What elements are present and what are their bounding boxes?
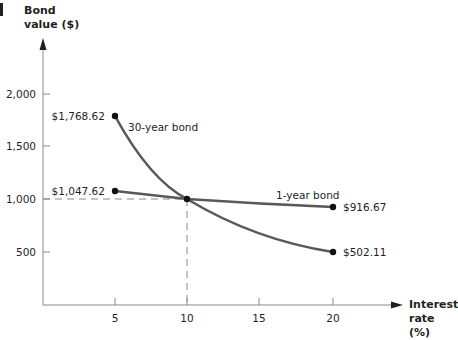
label-30yr-20: $502.11 (343, 246, 386, 258)
y-tick-1500: 1,500 (6, 140, 36, 152)
y-tick-1000: 1,000 (6, 193, 36, 205)
label-1yr-20: $916.67 (343, 201, 386, 213)
series-30-year-bond (115, 116, 333, 252)
x-tick-5: 5 (112, 312, 119, 324)
axes (43, 48, 392, 305)
point-intersection-10 (184, 196, 190, 202)
y-tick-500: 500 (16, 246, 36, 258)
label-1yr-5: $1,047.62 (52, 185, 105, 197)
x-tick-15: 15 (252, 312, 265, 324)
label-30yr-5: $1,768.62 (52, 110, 105, 122)
x-tick-20: 20 (326, 312, 339, 324)
x-axis-arrow-icon (391, 302, 403, 309)
y-axis-arrow-icon (40, 38, 47, 50)
point-1yr-5 (112, 188, 118, 194)
point-30yr-5 (112, 113, 118, 119)
point-1yr-20 (330, 204, 336, 210)
y-ticks (43, 94, 50, 252)
data-points (112, 113, 336, 255)
series-label-30yr: 30-year bond (128, 121, 198, 133)
reference-lines (43, 199, 187, 305)
point-30yr-20 (330, 249, 336, 255)
x-tick-10: 10 (180, 312, 193, 324)
series-label-1yr: 1-year bond (276, 189, 339, 201)
x-ticks (115, 298, 333, 305)
y-tick-2000: 2,000 (6, 88, 36, 100)
